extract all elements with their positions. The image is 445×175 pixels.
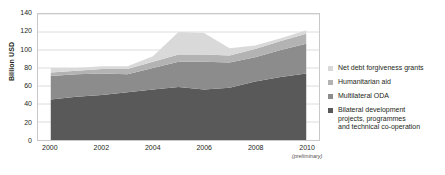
x-tick-label: 2002: [94, 144, 110, 151]
x-tick-sublabel: (preliminary): [292, 153, 323, 159]
legend-item[interactable]: Multilateral ODA: [328, 92, 445, 101]
x-tick-label: 2004: [145, 144, 161, 151]
x-tick-label: 2008: [248, 144, 264, 151]
legend-swatch-icon: [328, 108, 333, 113]
x-tick-label: 2010: [299, 144, 315, 151]
legend-label: Humanitarian aid: [338, 78, 391, 87]
legend-label-line: Bilateral development: [338, 106, 420, 115]
chart-legend: Net debt forgiveness grantsHumanitarian …: [328, 64, 445, 138]
x-tick-label: 2000: [42, 144, 58, 151]
legend-swatch-icon: [328, 94, 333, 99]
legend-swatch-icon: [328, 66, 333, 71]
legend-label-line: Multilateral ODA: [338, 92, 389, 101]
x-tick-label: 2006: [196, 144, 212, 151]
legend-label-line: Net debt forgiveness grants: [338, 64, 424, 73]
legend-label: Net debt forgiveness grants: [338, 64, 424, 73]
legend-label-line: projects, programmes: [338, 115, 420, 124]
legend-label-line: and technical co-operation: [338, 123, 420, 132]
legend-label: Multilateral ODA: [338, 92, 389, 101]
stacked-area-chart-figure: Billion USD 020406080100120140 200020022…: [0, 0, 445, 175]
legend-label: Bilateral developmentprojects, programme…: [338, 106, 420, 132]
legend-swatch-icon: [328, 80, 333, 85]
legend-item[interactable]: Bilateral developmentprojects, programme…: [328, 106, 445, 132]
legend-item[interactable]: Humanitarian aid: [328, 78, 445, 87]
legend-label-line: Humanitarian aid: [338, 78, 391, 87]
legend-item[interactable]: Net debt forgiveness grants: [328, 64, 445, 73]
